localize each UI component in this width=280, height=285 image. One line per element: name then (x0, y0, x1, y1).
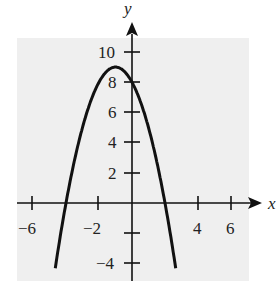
y-tick-label: 10 (98, 43, 115, 62)
y-tick-label: −4 (96, 254, 115, 273)
x-axis-label: x (267, 194, 276, 213)
x-tick-label: −6 (18, 219, 36, 238)
parabola-chart: y x −6 −2 4 6 10 8 6 4 2 −4 (0, 0, 280, 285)
x-tick-label: 6 (226, 219, 235, 238)
x-tick-label: 4 (193, 219, 202, 238)
y-tick-label: 4 (108, 133, 117, 152)
y-axis-label: y (122, 0, 132, 18)
x-tick-label: −2 (83, 219, 101, 238)
y-tick-label: 2 (108, 164, 117, 183)
plot-background (17, 38, 249, 281)
y-tick-label: 8 (108, 73, 117, 92)
y-tick-label: 6 (108, 103, 117, 122)
y-axis-arrow-icon (126, 22, 138, 36)
